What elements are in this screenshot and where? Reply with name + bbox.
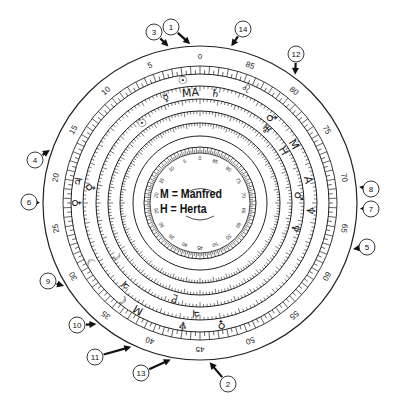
tick bbox=[126, 232, 129, 233]
tick bbox=[328, 216, 336, 217]
tick bbox=[168, 91, 169, 94]
tick bbox=[217, 300, 218, 305]
tick bbox=[270, 276, 272, 278]
tick bbox=[113, 125, 115, 127]
tick bbox=[279, 160, 282, 161]
tick bbox=[134, 158, 136, 160]
tick bbox=[145, 100, 146, 103]
tick bbox=[172, 314, 173, 317]
tick bbox=[243, 137, 245, 139]
tick bbox=[228, 116, 229, 119]
tick bbox=[126, 310, 128, 313]
tick bbox=[306, 246, 309, 247]
tick bbox=[243, 267, 245, 269]
callout-arrow bbox=[149, 362, 166, 370]
tick bbox=[137, 250, 139, 252]
tick bbox=[250, 197, 256, 198]
tick bbox=[294, 241, 297, 242]
tick bbox=[147, 186, 153, 188]
tick bbox=[275, 271, 277, 273]
tick bbox=[139, 152, 143, 155]
tick bbox=[120, 267, 124, 270]
tick bbox=[227, 69, 229, 77]
callout-label-4: 4 bbox=[33, 156, 38, 165]
tick bbox=[159, 235, 161, 237]
tick bbox=[257, 255, 259, 257]
callout-label-2: 2 bbox=[226, 380, 231, 389]
tick bbox=[273, 131, 275, 133]
tick bbox=[228, 300, 229, 303]
tick bbox=[248, 218, 254, 220]
tick bbox=[159, 169, 161, 171]
tick bbox=[275, 133, 277, 135]
tick bbox=[177, 248, 178, 251]
tick bbox=[168, 104, 169, 107]
tick bbox=[302, 119, 308, 124]
tick bbox=[184, 112, 185, 117]
inner-scale-label-40: 40 bbox=[181, 241, 188, 249]
tick bbox=[219, 154, 220, 157]
tick bbox=[243, 95, 244, 98]
scale-label-20: 20 bbox=[51, 172, 62, 183]
tick bbox=[292, 270, 294, 272]
tick bbox=[293, 237, 298, 239]
tick bbox=[259, 119, 261, 121]
tick bbox=[151, 140, 153, 142]
tick bbox=[88, 171, 91, 172]
tick bbox=[90, 241, 95, 243]
tick bbox=[181, 150, 183, 156]
tick bbox=[243, 309, 244, 312]
scale-label-10: 10 bbox=[100, 84, 113, 97]
tick bbox=[296, 111, 302, 116]
tick bbox=[149, 277, 151, 279]
tick bbox=[297, 220, 302, 221]
tick bbox=[149, 305, 150, 308]
tick bbox=[228, 244, 230, 246]
callout-label-14: 14 bbox=[239, 25, 248, 34]
arrowhead-icon bbox=[89, 321, 96, 328]
scale-label-85: 85 bbox=[244, 60, 256, 72]
tick bbox=[293, 167, 298, 169]
tick bbox=[267, 295, 269, 297]
tick bbox=[321, 247, 325, 248]
scale-label-40: 40 bbox=[144, 335, 156, 347]
tick bbox=[186, 124, 187, 129]
tick bbox=[144, 208, 150, 209]
tick bbox=[327, 225, 335, 226]
tick bbox=[224, 315, 225, 318]
tick bbox=[225, 246, 227, 249]
tick bbox=[292, 161, 295, 162]
tick bbox=[175, 276, 176, 279]
tick bbox=[117, 242, 120, 243]
tick bbox=[152, 223, 155, 224]
tick bbox=[119, 119, 121, 121]
callout-label-6: 6 bbox=[27, 198, 32, 207]
tick bbox=[261, 250, 263, 252]
tick bbox=[142, 300, 145, 304]
tick bbox=[182, 300, 183, 305]
tick bbox=[98, 185, 103, 186]
tick bbox=[129, 165, 132, 166]
tick bbox=[136, 267, 138, 269]
tick bbox=[248, 217, 251, 218]
callout-label-9: 9 bbox=[46, 277, 51, 286]
tick bbox=[128, 146, 130, 148]
tick bbox=[142, 147, 144, 149]
tick bbox=[130, 278, 132, 280]
tick bbox=[264, 279, 267, 283]
tick bbox=[114, 233, 119, 235]
tick bbox=[225, 115, 226, 118]
tick bbox=[236, 71, 238, 79]
tick bbox=[312, 135, 319, 139]
tick bbox=[241, 108, 242, 111]
tick bbox=[75, 247, 79, 248]
tick bbox=[77, 260, 84, 264]
tick bbox=[98, 118, 101, 121]
tick bbox=[164, 105, 166, 110]
callout-arrow bbox=[213, 366, 222, 377]
tick bbox=[276, 288, 278, 290]
tick bbox=[281, 166, 284, 167]
tick bbox=[131, 295, 133, 297]
tick bbox=[143, 131, 145, 133]
tick bbox=[286, 253, 290, 256]
